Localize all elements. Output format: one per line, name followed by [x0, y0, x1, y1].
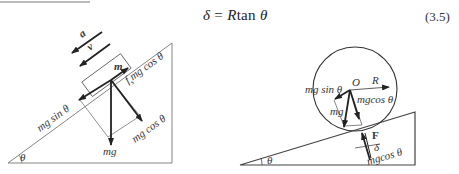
label-theta-right: θ — [267, 154, 273, 166]
left-incline-figure: a v m fsmg cos θ mg sin θ mg cos θ mg θ — [8, 26, 172, 163]
right-incline-figure: mg sin θ O R mgcos θ mg F δ mgcos θ θ — [240, 47, 415, 167]
label-a: a — [76, 26, 88, 39]
mg-cos-arrow — [111, 80, 142, 121]
label-theta-left: θ — [20, 151, 26, 163]
label-mg: mg — [103, 145, 117, 157]
label-o: O — [352, 76, 360, 88]
gravity-arrow-right — [344, 90, 350, 127]
label-r: R — [371, 74, 379, 86]
label-mg-cos-bottom: mgcos θ — [365, 145, 404, 167]
angle-arc-right — [261, 158, 262, 165]
label-f: F — [372, 129, 379, 141]
label-v: v — [84, 40, 95, 53]
physics-diagrams: a v m fsmg cos θ mg sin θ mg cos θ mg θ … — [0, 0, 459, 174]
velocity-arrow — [80, 44, 110, 66]
label-mg-sin: mg sin θ — [34, 102, 72, 134]
label-mg-cos-top: mgcos θ — [357, 93, 394, 105]
label-mg-sin-right: mg sin θ — [305, 83, 343, 95]
label-mg-right: mg — [330, 105, 344, 117]
label-mg-cos: mg cos θ — [129, 112, 168, 145]
label-m: m — [114, 60, 123, 72]
